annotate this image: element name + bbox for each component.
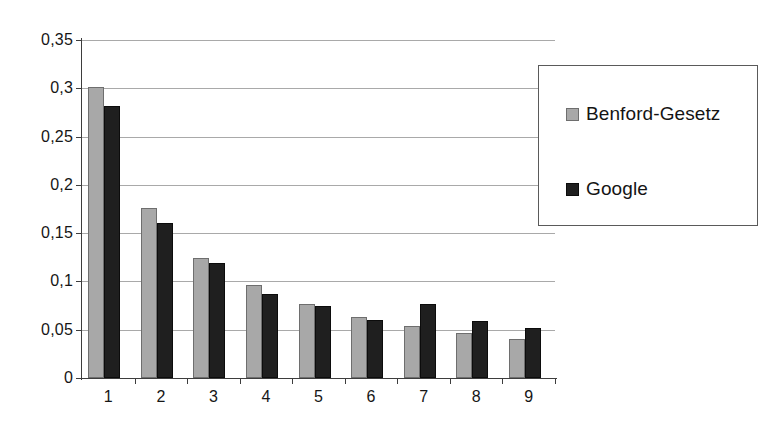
y-axis-tick-label: 0,35 <box>41 31 73 49</box>
gridline <box>82 40 555 41</box>
x-axis-tick <box>345 378 346 384</box>
bar <box>88 87 104 378</box>
bar <box>315 306 331 378</box>
x-axis-tick-label: 2 <box>156 388 165 406</box>
legend-swatch-icon <box>566 183 579 196</box>
y-axis-tick-label: 0,3 <box>50 79 73 97</box>
legend-item-benford-gesetz: Benford-Gesetz <box>566 103 720 125</box>
legend-item-google: Google <box>566 178 648 200</box>
x-axis-line <box>81 378 557 379</box>
x-axis-tick <box>135 378 136 384</box>
y-axis-tick <box>76 281 82 282</box>
x-axis-tick-label: 9 <box>524 388 533 406</box>
y-axis-tick <box>76 137 82 138</box>
bar <box>351 317 367 378</box>
x-axis-tick-label: 8 <box>472 388 481 406</box>
x-axis-tick <box>502 378 503 384</box>
y-axis-tick-label: 0,25 <box>41 128 73 146</box>
bar <box>299 304 315 378</box>
bar <box>157 223 173 378</box>
x-axis-tick-label: 1 <box>104 388 113 406</box>
gridline <box>82 137 555 138</box>
legend-swatch-icon <box>566 108 579 121</box>
y-axis-tick <box>76 330 82 331</box>
x-axis-tick-label: 5 <box>314 388 323 406</box>
bar <box>209 263 225 378</box>
bar-chart: 00,050,10,150,20,250,30,35 123456789 Ben… <box>0 0 779 432</box>
x-axis-tick <box>555 378 556 384</box>
y-axis-tick <box>76 40 82 41</box>
y-axis-tick <box>76 233 82 234</box>
legend: Benford-Gesetz Google <box>538 65 758 226</box>
bar <box>509 339 525 378</box>
bar <box>472 321 488 378</box>
bar <box>141 208 157 378</box>
bar <box>193 258 209 378</box>
x-axis-tick-label: 4 <box>261 388 270 406</box>
bar <box>456 333 472 378</box>
x-axis-tick <box>292 378 293 384</box>
x-axis-tick <box>187 378 188 384</box>
x-axis-tick-label: 6 <box>367 388 376 406</box>
x-axis-tick <box>240 378 241 384</box>
legend-label: Benford-Gesetz <box>586 103 720 125</box>
bar <box>104 106 120 378</box>
y-axis-tick <box>76 88 82 89</box>
y-axis-tick-label: 0,05 <box>41 321 73 339</box>
y-axis-tick <box>76 185 82 186</box>
plot-area: 00,050,10,150,20,250,30,35 <box>82 40 555 378</box>
x-axis-tick <box>397 378 398 384</box>
y-axis-tick-label: 0 <box>64 369 73 387</box>
bar <box>420 304 436 378</box>
x-axis-tick-label: 7 <box>419 388 428 406</box>
bar <box>404 326 420 378</box>
gridline <box>82 88 555 89</box>
bar <box>262 294 278 378</box>
x-axis-tick-label: 3 <box>209 388 218 406</box>
bar <box>525 328 541 378</box>
y-axis-tick-label: 0,15 <box>41 224 73 242</box>
y-axis-tick <box>76 378 82 379</box>
y-axis-tick-label: 0,1 <box>50 272 73 290</box>
bar <box>246 285 262 378</box>
x-axis-tick <box>450 378 451 384</box>
gridline <box>82 185 555 186</box>
y-axis-tick-label: 0,2 <box>50 176 73 194</box>
legend-label: Google <box>586 178 648 200</box>
bar <box>367 320 383 378</box>
